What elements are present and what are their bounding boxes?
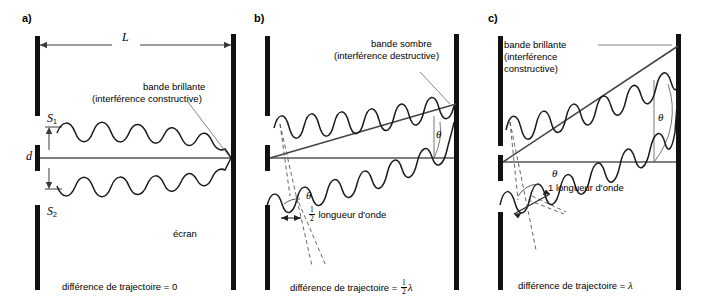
label-angle-theta-lower: θ xyxy=(552,168,557,180)
label-band-bright-line2: (interférence constructive) xyxy=(92,93,202,105)
barrier-left-middle xyxy=(498,155,503,181)
label-angle-theta-upper: θ xyxy=(436,129,441,141)
label-band-bright-line1: bande brillante xyxy=(504,39,566,51)
panel-b-letter: b) xyxy=(254,12,264,24)
panel-b-caption-prefix: différence de trajectoire = xyxy=(290,282,400,293)
label-slit-s2-sub: 2 xyxy=(53,211,57,218)
barrier-left-top xyxy=(498,36,503,146)
barrier-left-bottom xyxy=(498,212,503,290)
wavefront-dashed-lines xyxy=(280,124,326,266)
label-slit-s1-sub: 1 xyxy=(53,118,57,125)
barrier-left-middle xyxy=(35,145,40,171)
label-distance-L: L xyxy=(122,32,129,44)
barrier-left-bottom xyxy=(35,205,40,290)
wave-lower xyxy=(500,92,678,213)
panel-a: a) L S1 S2 d écran bande brillante (inte… xyxy=(0,0,238,306)
barrier-left-top xyxy=(265,36,270,116)
half-wavelength-denominator: 2 xyxy=(309,215,315,223)
barrier-left-top xyxy=(35,36,40,116)
wave-upper xyxy=(274,97,454,138)
label-band-bright-line2: (interférence xyxy=(504,51,557,63)
panel-b-caption-denominator: 2 xyxy=(401,288,407,296)
distance-L-arrow xyxy=(40,42,231,48)
label-band-dark-line1: bande sombre xyxy=(371,38,432,50)
half-wavelength-arrow xyxy=(281,215,301,221)
panel-c: c) bande brillante (interférence constru… xyxy=(476,0,711,306)
label-slit-s2: S2 xyxy=(47,206,57,220)
label-screen: écran xyxy=(173,228,197,240)
screen-barrier xyxy=(231,34,236,290)
panel-b-graphics xyxy=(238,0,476,306)
panel-b-caption-lambda: λ xyxy=(408,281,413,293)
label-band-dark-line2: (interférence destructive) xyxy=(334,50,439,62)
label-slit-s1: S1 xyxy=(47,113,57,127)
panel-b-caption-fraction: 12 xyxy=(401,279,407,296)
wave-upper xyxy=(57,122,231,158)
panel-b-caption: différence de trajectoire = 12λ xyxy=(290,279,412,296)
half-wavelength-fraction: 1 2 xyxy=(309,206,315,223)
panel-a-caption: différence de trajectoire = 0 xyxy=(62,281,177,292)
panel-c-caption: différence de trajectoire = λ xyxy=(518,279,633,291)
screen-barrier xyxy=(454,34,459,290)
panel-a-letter: a) xyxy=(22,12,32,24)
band-leader-line xyxy=(188,102,229,156)
panel-b: b) bande sombre (interférence destructiv… xyxy=(238,0,476,306)
barrier-left-middle xyxy=(265,145,270,171)
wave-lower xyxy=(57,158,231,197)
wave-upper xyxy=(506,73,678,139)
label-band-bright-line3: constructive) xyxy=(504,63,558,75)
label-angle-theta-lower: θ xyxy=(306,190,311,202)
panel-a-graphics xyxy=(0,0,238,306)
interference-figure: a) L S1 S2 d écran bande brillante (inte… xyxy=(0,0,711,306)
screen-barrier xyxy=(676,34,681,290)
label-one-wavelength: 1 longueur d'onde xyxy=(548,182,624,194)
label-half-wavelength: 1 2 longueur d'onde xyxy=(308,206,386,223)
label-separation-d: d xyxy=(26,151,32,163)
label-band-bright-line1: bande brillante xyxy=(143,81,205,93)
panel-c-caption-lambda: λ xyxy=(628,279,633,291)
panel-c-caption-prefix: différence de trajectoire = xyxy=(518,280,628,291)
panel-a-caption-value: 0 xyxy=(172,281,177,292)
barrier-left-bottom xyxy=(265,205,270,290)
half-wavelength-text: longueur d'onde xyxy=(316,209,387,220)
panel-c-letter: c) xyxy=(488,12,498,24)
label-angle-theta-upper: θ xyxy=(658,112,663,124)
panel-a-caption-prefix: différence de trajectoire = xyxy=(62,281,172,292)
